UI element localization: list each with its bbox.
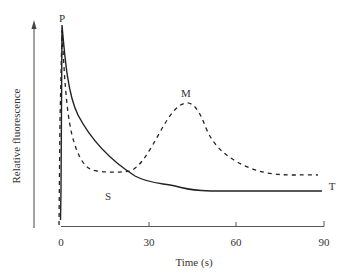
label-T: T: [329, 180, 336, 192]
label-M: M: [181, 87, 191, 99]
fluorescence-chart: Relative fluorescence 0 30 60 90 Time (s…: [0, 0, 348, 274]
y-axis-label: Relative fluorescence: [10, 88, 22, 183]
dashed-fluorescence-curve: [59, 30, 318, 225]
x-axis-label: Time (s): [175, 256, 213, 269]
solid-fluorescence-curve: [61, 25, 323, 220]
x-tick-label-0: 0: [58, 236, 64, 248]
x-tick-label-60: 60: [231, 236, 243, 248]
y-axis-arrowhead-icon: [32, 20, 37, 29]
x-tick-label-90: 90: [319, 236, 331, 248]
label-S: S: [105, 190, 111, 202]
label-P: P: [59, 12, 65, 24]
x-tick-label-30: 30: [144, 236, 156, 248]
